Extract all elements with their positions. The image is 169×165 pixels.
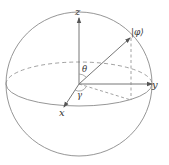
projection-equatorial bbox=[79, 84, 131, 100]
y-axis-label: y bbox=[151, 79, 158, 90]
state-label: |φ⟩ bbox=[131, 27, 144, 38]
theta-arc bbox=[79, 74, 86, 77]
bloch-sphere-diagram: z y x |φ⟩ θ γ bbox=[0, 0, 169, 165]
gamma-label: γ bbox=[77, 90, 83, 100]
state-vector bbox=[79, 38, 130, 84]
z-axis-label: z bbox=[74, 6, 81, 17]
theta-label: θ bbox=[82, 64, 87, 74]
x-axis-label: x bbox=[59, 107, 65, 118]
